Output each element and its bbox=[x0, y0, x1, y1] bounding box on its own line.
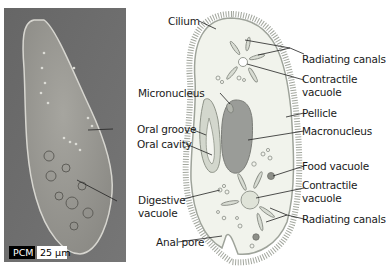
label-contractile-vacuole-bottom-1: Contractile bbox=[302, 179, 357, 191]
label-radiating-canals-top: Radiating canals bbox=[302, 53, 386, 65]
food-vacuole-lower bbox=[253, 234, 259, 240]
label-contractile-vacuole-bottom-2: vacuole bbox=[302, 192, 341, 204]
label-food-vacuole: Food vacuole bbox=[302, 160, 369, 172]
label-oral-groove: Oral groove bbox=[137, 123, 196, 135]
label-contractile-vacuole-top-2: vacuole bbox=[302, 86, 341, 98]
label-micronucleus: Micronucleus bbox=[138, 87, 204, 99]
label-digestive-vacuole-1: Digestive bbox=[138, 194, 186, 206]
label-contractile-vacuole-top-1: Contractile bbox=[302, 73, 357, 85]
label-macronucleus: Macronucleus bbox=[302, 125, 372, 137]
label-digestive-vacuole-2: vacuole bbox=[138, 207, 177, 219]
label-pellicle: Pellicle bbox=[302, 107, 337, 119]
label-anal-pore: Anal pore bbox=[156, 236, 204, 248]
label-oral-cavity: Oral cavity bbox=[137, 138, 192, 150]
label-radiating-canals-bottom: Radiating canals bbox=[302, 213, 386, 225]
label-cilium: Cilium bbox=[168, 15, 200, 27]
